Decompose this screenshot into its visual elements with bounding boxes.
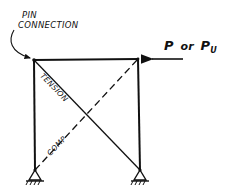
pin-connection-label-line2: CONNECTION [18, 20, 78, 30]
pin-connection-label: PIN CONNECTION [18, 10, 78, 30]
load-p: P [164, 38, 174, 53]
top-beam [34, 59, 138, 60]
load-or: or [180, 40, 193, 53]
load-pu-base: P [201, 38, 211, 53]
right-pin-support-icon [131, 170, 149, 185]
right-column [138, 59, 140, 170]
pin-connection-leader [11, 30, 30, 58]
left-column [34, 60, 35, 170]
load-pu-subscript: U [210, 46, 217, 55]
load-pu: PU [201, 38, 217, 53]
top-right-node [137, 58, 140, 61]
pin-connection-node [32, 58, 36, 62]
pin-connection-label-line1: PIN [18, 10, 78, 20]
load-label: P or PU [164, 39, 217, 55]
left-pin-support-icon [26, 170, 44, 185]
